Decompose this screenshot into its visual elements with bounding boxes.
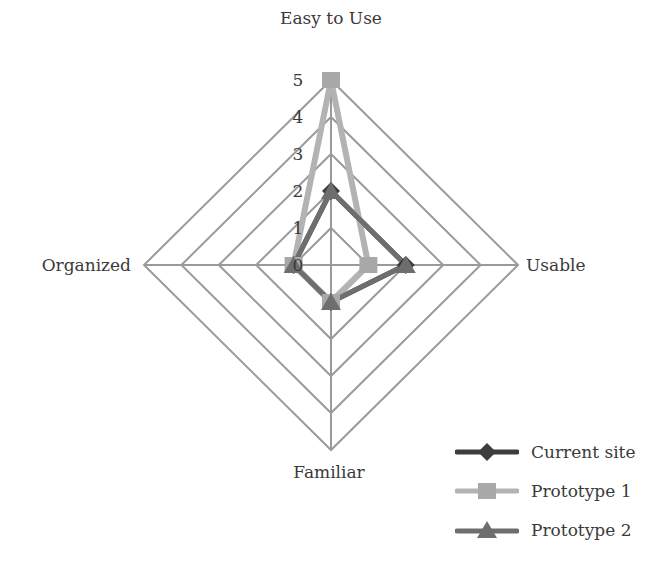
legend-label: Prototype 2: [531, 520, 631, 540]
legend-item-prototype-2: Prototype 2: [455, 510, 636, 549]
legend-label: Prototype 1: [531, 481, 631, 501]
square-marker-icon: [359, 257, 377, 273]
tick-label: 2: [293, 181, 304, 201]
radar-axes: [144, 80, 518, 450]
legend-item-current-site: Current site: [455, 432, 636, 471]
tick-label: 3: [293, 144, 304, 164]
tick-label: 0: [293, 255, 304, 275]
axis-label-organized: Organized: [42, 255, 131, 275]
axis-label-familiar: Familiar: [293, 462, 365, 482]
tick-label: 1: [293, 218, 304, 238]
square-marker-icon: [322, 72, 340, 88]
axis-label-easy-to-use: Easy to Use: [280, 8, 382, 28]
tick-label: 4: [293, 107, 304, 127]
square-marker-icon: [455, 481, 519, 501]
legend-item-prototype-1: Prototype 1: [455, 471, 636, 510]
diamond-marker-icon: [455, 442, 519, 462]
chart-legend: Current site Prototype 1 Prototype 2: [455, 432, 636, 549]
triangle-marker-icon: [455, 520, 519, 540]
tick-label: 5: [293, 70, 304, 90]
legend-label: Current site: [531, 442, 636, 462]
axis-label-usable: Usable: [526, 255, 586, 275]
